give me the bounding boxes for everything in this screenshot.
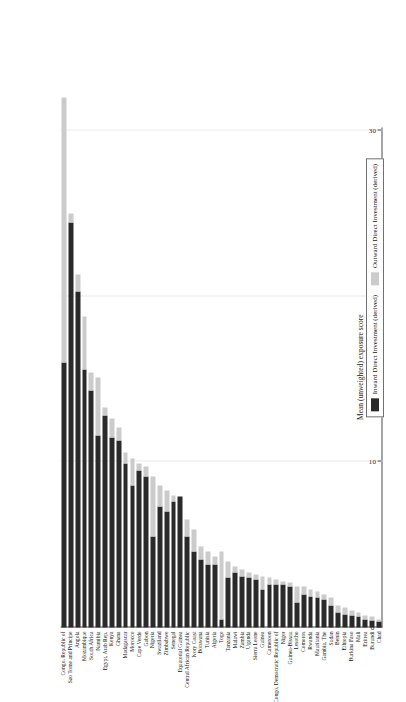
bar-segment-inward [143, 476, 148, 627]
bar-stack[interactable] [335, 606, 340, 628]
category-label: Kenya [108, 631, 114, 646]
bar-stack[interactable] [136, 463, 141, 627]
bar-stack[interactable] [68, 213, 73, 627]
bar-stack[interactable] [198, 546, 203, 627]
bar-stack[interactable] [232, 566, 237, 627]
bar-stack[interactable] [321, 594, 326, 627]
category-label: Tunisia [204, 631, 210, 648]
bar-stack[interactable] [328, 597, 333, 627]
category-label: Uganda [245, 631, 251, 648]
category-label: Tanzania [225, 631, 231, 651]
category-label: Nigeria [149, 631, 155, 648]
category-label: Botswana [197, 631, 203, 653]
category-label: Benin [334, 631, 340, 644]
bar-stack[interactable] [294, 586, 299, 627]
bar-stack[interactable] [177, 496, 182, 627]
bar-stack[interactable] [301, 586, 306, 627]
bar-segment-inward [123, 463, 128, 627]
bar-stack[interactable] [109, 418, 114, 627]
category-label: Madagascar [122, 631, 128, 658]
bar-stack[interactable] [280, 581, 285, 627]
gridline [60, 461, 382, 462]
bar-stack[interactable] [239, 569, 244, 627]
gridline [60, 130, 382, 131]
bar-stack[interactable] [356, 612, 361, 627]
bar-stack[interactable] [315, 591, 320, 627]
bar-stack[interactable] [369, 616, 374, 627]
bar-stack[interactable] [342, 607, 347, 627]
bar-stack[interactable] [362, 615, 367, 627]
category-label: Mozambique [81, 631, 87, 661]
bar-stack[interactable] [171, 495, 176, 627]
category-label: Malawi [232, 631, 238, 648]
bar-stack[interactable] [75, 275, 80, 628]
bar-segment-outward [301, 586, 306, 594]
bar-segment-inward [321, 599, 326, 627]
bar-segment-inward [130, 485, 135, 627]
bar-stack[interactable] [116, 427, 121, 627]
bar-stack[interactable] [157, 485, 162, 627]
category-label: Algeria [211, 631, 217, 648]
bar-stack[interactable] [219, 551, 224, 627]
bar-stack[interactable] [253, 574, 258, 627]
bar-stack[interactable] [267, 577, 272, 627]
bar-segment-inward [335, 612, 340, 627]
bar-stack[interactable] [308, 589, 313, 627]
category-label: Rwanda [307, 631, 313, 649]
bar-stack[interactable] [123, 452, 128, 627]
category-label: Chad [376, 631, 382, 643]
bar-segment-outward [164, 490, 169, 512]
category-label: Sudan [328, 631, 334, 645]
bar-segment-outward [68, 213, 73, 221]
chart-legend: Inward Direct Investment (derived)Outwar… [366, 158, 384, 417]
bar-stack[interactable] [82, 316, 87, 627]
bar-segment-outward [273, 579, 278, 584]
legend-item[interactable]: Inward Direct Investment (derived) [371, 295, 379, 411]
bar-stack[interactable] [143, 466, 148, 627]
bar-segment-inward [376, 621, 381, 627]
bar-stack[interactable] [184, 519, 189, 627]
bar-segment-inward [116, 440, 121, 627]
bar-segment-outward [184, 519, 189, 536]
bar-stack[interactable] [130, 458, 135, 627]
bar-stack[interactable] [102, 407, 107, 627]
bar-segment-outward [82, 316, 87, 369]
bar-stack[interactable] [150, 476, 155, 627]
bar-segment-outward [246, 572, 251, 577]
bar-segment-inward [349, 615, 354, 627]
bar-segment-outward [342, 607, 347, 614]
bar-segment-inward [75, 291, 80, 627]
category-label: Guinea [259, 631, 265, 647]
bar-segment-inward [68, 222, 73, 627]
category-label: Senegal [170, 631, 176, 649]
category-label: Togo [218, 631, 224, 642]
category-label: Equatorial Guinea [177, 631, 183, 672]
bar-stack[interactable] [88, 372, 93, 627]
bar-stack[interactable] [212, 556, 217, 627]
bar-segment-inward [246, 577, 251, 627]
bar-stack[interactable] [225, 561, 230, 627]
bar-stack[interactable] [376, 619, 381, 627]
bar-stack[interactable] [246, 572, 251, 627]
bar-stack[interactable] [260, 576, 265, 627]
bar-stack[interactable] [205, 551, 210, 627]
bar-segment-inward [205, 564, 210, 627]
bar-stack[interactable] [287, 582, 292, 627]
bar-stack[interactable] [273, 579, 278, 627]
bar-stack[interactable] [191, 529, 196, 627]
bar-segment-inward [287, 586, 292, 627]
bar-segment-outward [260, 576, 265, 589]
bar-stack[interactable] [164, 490, 169, 627]
bar-segment-inward [239, 576, 244, 627]
bar-segment-outward [171, 495, 176, 502]
bar-stack[interactable] [61, 97, 66, 627]
bar-segment-inward [61, 362, 66, 627]
legend-item[interactable]: Outward Direct Investment (derived) [371, 164, 379, 285]
category-label: Central African Republic [184, 631, 190, 687]
bar-stack[interactable] [95, 377, 100, 627]
bar-stack[interactable] [349, 610, 354, 627]
category-label: Niger [280, 631, 286, 644]
